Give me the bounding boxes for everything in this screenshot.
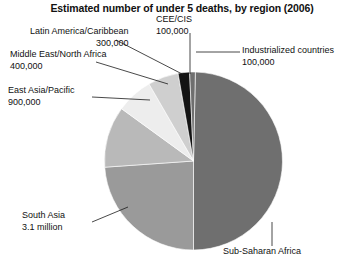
callout-middle-east-name: Middle East/North Africa — [10, 49, 107, 61]
callout-latin-america-value: 300,000 — [30, 38, 129, 50]
callout-south-asia-value: 3.1 million — [22, 222, 65, 234]
callout-industrialized-name: Industrialized countries — [242, 45, 334, 57]
callout-middle-east-value: 400,000 — [10, 61, 107, 73]
callout-industrialized-value: 100,000 — [242, 57, 334, 69]
callout-cee-cis: CEE/CIS 100,000 — [156, 14, 192, 37]
callout-south-asia: South Asia 3.1 million — [22, 210, 65, 233]
callout-subsaharan-africa: Sub-Saharan Africa — [223, 246, 301, 258]
pie-slice-south-asia — [105, 161, 194, 250]
callout-south-asia-name: South Asia — [22, 210, 65, 222]
callout-cee-cis-value: 100,000 — [156, 26, 192, 38]
callout-east-asia: East Asia/Pacific 900,000 — [8, 85, 75, 108]
callout-middle-east: Middle East/North Africa 400,000 — [10, 49, 107, 72]
callout-latin-america: Latin America/Caribbean 300,000 — [30, 26, 129, 49]
callout-subsaharan-africa-name: Sub-Saharan Africa — [223, 246, 301, 258]
callout-industrialized: Industrialized countries 100,000 — [242, 45, 334, 68]
pie-slice-sub-saharan-africa — [194, 72, 283, 250]
callout-latin-america-name: Latin America/Caribbean — [30, 26, 129, 38]
callout-cee-cis-name: CEE/CIS — [156, 14, 192, 26]
callout-east-asia-name: East Asia/Pacific — [8, 85, 75, 97]
callout-east-asia-value: 900,000 — [8, 97, 75, 109]
pie-chart-figure: Estimated number of under 5 deaths, by r… — [0, 0, 364, 262]
leader-line-middle-east — [96, 62, 168, 84]
